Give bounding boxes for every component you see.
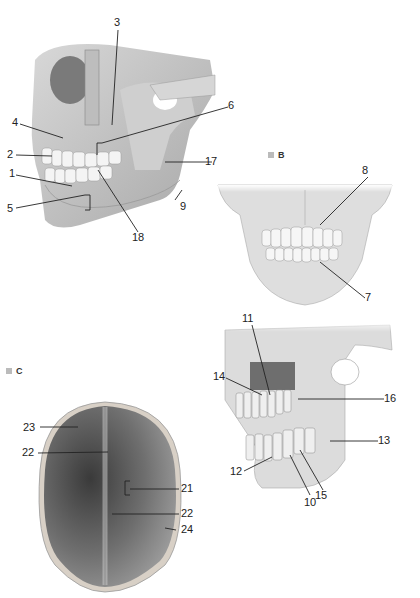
callout-10: 10	[304, 497, 316, 508]
callout-17: 17	[205, 156, 217, 167]
callout-23: 23	[23, 422, 35, 433]
panel-c-illustration	[39, 402, 181, 592]
panel-label-c: C	[16, 366, 23, 376]
callout-16: 16	[384, 393, 396, 404]
callout-7: 7	[365, 292, 371, 303]
callout-8: 8	[362, 165, 368, 176]
callout-3: 3	[114, 17, 120, 28]
callout-1: 1	[9, 168, 15, 179]
callout-12: 12	[230, 466, 242, 477]
callout-2: 2	[7, 149, 13, 160]
callout-24: 24	[181, 524, 193, 535]
callout-14: 14	[213, 371, 225, 382]
callout-11: 11	[242, 313, 253, 324]
callout-18: 18	[132, 232, 144, 243]
callout-22-upper: 22	[22, 447, 34, 458]
callout-13: 13	[378, 435, 390, 446]
callout-22-lower: 22	[181, 508, 193, 519]
callout-4: 4	[12, 117, 18, 128]
panel-tag-c: C	[6, 366, 23, 376]
panel-b-illustration	[218, 185, 392, 305]
panel-lateral-roots-illustration	[225, 320, 392, 488]
panel-label-b: B	[278, 150, 285, 160]
callout-15: 15	[315, 490, 327, 501]
callout-6: 6	[228, 100, 234, 111]
callout-9: 9	[180, 201, 186, 212]
callout-5: 5	[7, 203, 13, 214]
callout-21: 21	[181, 483, 193, 494]
panel-marker-icon	[6, 368, 12, 374]
panel-marker-icon	[268, 152, 274, 158]
panel-tag-b: B	[268, 150, 285, 160]
anatomy-artwork	[0, 0, 420, 598]
